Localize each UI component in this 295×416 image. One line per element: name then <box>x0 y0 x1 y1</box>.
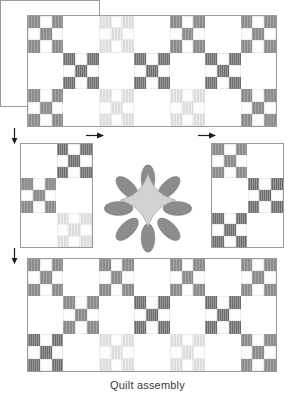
patch-fabric <box>264 259 276 271</box>
patch-fabric <box>241 259 253 271</box>
patch-fabric <box>63 296 75 308</box>
quilt-block-ninepatch <box>28 259 63 296</box>
patch-background <box>122 346 134 358</box>
patch-fabric <box>75 309 87 321</box>
patch-fabric <box>241 334 253 346</box>
patch-fabric <box>264 359 276 371</box>
patch-background <box>40 359 52 371</box>
patch-background <box>52 271 64 283</box>
patch-fabric <box>134 321 146 333</box>
patch-background <box>252 284 264 296</box>
patch-fabric <box>264 284 276 296</box>
patch-background <box>170 346 182 358</box>
quilt-block-plain <box>205 259 240 296</box>
patch-fabric <box>170 334 182 346</box>
patch-background <box>182 284 194 296</box>
patch-fabric <box>236 167 248 178</box>
patch-fabric <box>99 334 111 346</box>
quilt-block-plain <box>134 259 169 296</box>
patch-fabric <box>229 296 241 308</box>
ninepatch-grid <box>212 144 248 178</box>
patch-background <box>182 259 194 271</box>
ninepatch-grid <box>28 334 63 371</box>
ninepatch-grid <box>248 178 284 212</box>
patch-background <box>224 213 236 224</box>
patch-fabric <box>205 321 217 333</box>
patch-background <box>193 346 205 358</box>
patch-background <box>248 190 260 201</box>
patch-fabric <box>40 271 52 283</box>
ninepatch-grid <box>99 334 134 371</box>
patch-fabric <box>28 334 40 346</box>
quilt-block-plain <box>170 296 205 333</box>
quilt-assembly-diagram: Quilt assembly <box>0 0 295 416</box>
quilt-block-ninepatch <box>99 334 134 371</box>
patch-fabric <box>248 201 260 212</box>
patch-background <box>241 346 253 358</box>
quilt-block-ninepatch <box>241 259 276 296</box>
patch-background <box>205 309 217 321</box>
quilt-block-ninepatch <box>212 213 248 247</box>
patch-fabric <box>134 296 146 308</box>
ninepatch-grid <box>28 259 63 296</box>
patch-background <box>182 359 194 371</box>
patch-fabric <box>182 271 194 283</box>
patch-fabric <box>99 284 111 296</box>
patch-background <box>259 178 271 189</box>
quilt-row-bottom <box>27 258 277 372</box>
patch-fabric <box>52 334 64 346</box>
diagram-caption: Quilt assembly <box>0 379 295 391</box>
patch-background <box>75 296 87 308</box>
patch-fabric <box>229 321 241 333</box>
seam-arrow-left-upper <box>10 128 19 144</box>
patch-background <box>259 201 271 212</box>
patch-fabric <box>271 201 283 212</box>
patch-fabric <box>122 284 134 296</box>
patch-background <box>212 224 224 235</box>
patch-background <box>217 296 229 308</box>
quilt-block-plain <box>205 334 240 371</box>
patch-background <box>111 259 123 271</box>
patch-fabric <box>212 213 224 224</box>
patch-fabric <box>236 213 248 224</box>
patch-fabric <box>146 309 158 321</box>
ninepatch-grid <box>241 334 276 371</box>
patch-fabric <box>158 321 170 333</box>
patch-background <box>158 309 170 321</box>
quilt-block-ninepatch <box>241 334 276 371</box>
patch-fabric <box>212 236 224 247</box>
patch-background <box>252 334 264 346</box>
quilt-row-right <box>211 143 284 248</box>
patch-fabric <box>122 359 134 371</box>
patch-fabric <box>182 346 194 358</box>
patch-background <box>63 309 75 321</box>
patch-background <box>122 271 134 283</box>
flower-petal <box>141 223 155 252</box>
patch-background <box>40 259 52 271</box>
ninepatch-grid <box>134 296 169 333</box>
patch-fabric <box>52 359 64 371</box>
patch-background <box>40 334 52 346</box>
patch-fabric <box>193 334 205 346</box>
patch-fabric <box>40 346 52 358</box>
patch-fabric <box>63 321 75 333</box>
patch-background <box>52 346 64 358</box>
patch-background <box>99 346 111 358</box>
patch-background <box>75 321 87 333</box>
seam-arrow-top-left <box>86 131 104 140</box>
ninepatch-grid <box>170 334 205 371</box>
patch-background <box>170 271 182 283</box>
patch-fabric <box>99 359 111 371</box>
patch-background <box>182 334 194 346</box>
patch-fabric <box>252 271 264 283</box>
patch-fabric <box>87 321 99 333</box>
patch-fabric <box>205 296 217 308</box>
seam-arrow-left-lower <box>10 248 19 264</box>
flower-petal <box>112 214 142 244</box>
patch-fabric <box>193 259 205 271</box>
patch-background <box>241 271 253 283</box>
ninepatch-grid <box>205 296 240 333</box>
patch-background <box>236 155 248 166</box>
patch-background <box>111 359 123 371</box>
quilt-block-ninepatch <box>170 259 205 296</box>
